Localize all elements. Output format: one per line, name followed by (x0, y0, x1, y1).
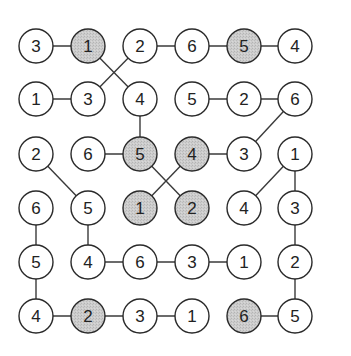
number-cell[interactable]: 2 (278, 245, 312, 279)
cell-number: 2 (31, 145, 40, 164)
cell-number: 6 (135, 253, 144, 272)
puzzle-board: 312654134526265431651243546312423165 (0, 0, 351, 356)
cell-number: 3 (290, 199, 299, 218)
cell-number: 3 (83, 90, 92, 109)
number-cell[interactable]: 3 (175, 245, 209, 279)
number-cell[interactable]: 2 (227, 82, 261, 116)
number-cell[interactable]: 2 (123, 29, 157, 63)
cell-number: 2 (239, 90, 248, 109)
number-cell[interactable]: 6 (19, 191, 53, 225)
cell-number: 5 (187, 90, 196, 109)
cell-number: 3 (135, 307, 144, 326)
number-cell[interactable]: 1 (227, 245, 261, 279)
shaded-number-cell[interactable]: 2 (175, 191, 209, 225)
cell-number: 2 (187, 199, 196, 218)
cell-number: 5 (239, 37, 248, 56)
cell-number: 2 (135, 37, 144, 56)
number-cell[interactable]: 3 (227, 137, 261, 171)
number-cell[interactable]: 6 (71, 137, 105, 171)
cell-number: 5 (135, 145, 144, 164)
shaded-number-cell[interactable]: 1 (123, 191, 157, 225)
number-cell[interactable]: 4 (19, 299, 53, 333)
cell-number: 2 (290, 253, 299, 272)
number-cell[interactable]: 2 (19, 137, 53, 171)
shaded-number-cell[interactable]: 5 (123, 137, 157, 171)
cell-number: 6 (187, 37, 196, 56)
cell-number: 6 (290, 90, 299, 109)
number-cell[interactable]: 6 (278, 82, 312, 116)
shaded-number-cell[interactable]: 2 (71, 299, 105, 333)
cell-number: 1 (187, 307, 196, 326)
cell-number: 1 (239, 253, 248, 272)
number-cell[interactable]: 6 (123, 245, 157, 279)
cell-number: 4 (31, 307, 40, 326)
number-cell[interactable]: 5 (278, 299, 312, 333)
cell-number: 4 (290, 37, 299, 56)
puzzle-canvas: 312654134526265431651243546312423165 (0, 0, 351, 356)
number-cell[interactable]: 6 (175, 29, 209, 63)
number-cell[interactable]: 1 (19, 82, 53, 116)
shaded-number-cell[interactable]: 6 (227, 299, 261, 333)
cell-number: 4 (239, 199, 248, 218)
number-cell[interactable]: 4 (71, 245, 105, 279)
shaded-number-cell[interactable]: 5 (227, 29, 261, 63)
number-cell[interactable]: 1 (278, 137, 312, 171)
cell-number: 3 (31, 37, 40, 56)
cell-number: 2 (83, 307, 92, 326)
number-cell[interactable]: 4 (227, 191, 261, 225)
number-cell[interactable]: 3 (123, 299, 157, 333)
number-cell[interactable]: 3 (71, 82, 105, 116)
shaded-number-cell[interactable]: 1 (71, 29, 105, 63)
number-cell[interactable]: 5 (19, 245, 53, 279)
cell-number: 1 (290, 145, 299, 164)
cell-number: 3 (187, 253, 196, 272)
cell-number: 4 (187, 145, 196, 164)
number-cell[interactable]: 3 (19, 29, 53, 63)
cell-number: 5 (83, 199, 92, 218)
number-cell[interactable]: 4 (278, 29, 312, 63)
cell-number: 1 (83, 37, 92, 56)
cell-number: 1 (31, 90, 40, 109)
cell-number: 6 (83, 145, 92, 164)
number-cell[interactable]: 5 (71, 191, 105, 225)
cell-number: 6 (239, 307, 248, 326)
shaded-number-cell[interactable]: 4 (175, 137, 209, 171)
cell-number: 6 (31, 199, 40, 218)
number-cell[interactable]: 1 (175, 299, 209, 333)
number-cell[interactable]: 4 (123, 82, 157, 116)
cell-number: 5 (290, 307, 299, 326)
cell-number: 3 (239, 145, 248, 164)
cell-number: 5 (31, 253, 40, 272)
number-cell[interactable]: 5 (175, 82, 209, 116)
cell-number: 4 (83, 253, 92, 272)
number-cell[interactable]: 3 (278, 191, 312, 225)
cell-number: 4 (135, 90, 144, 109)
cell-number: 1 (135, 199, 144, 218)
